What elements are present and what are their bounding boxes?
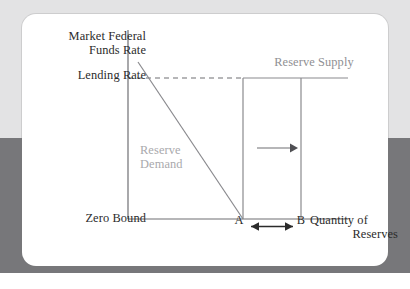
point-b-label: B — [290, 214, 312, 228]
backdrop-footer-strip — [0, 273, 410, 289]
reserve-supply-label: Reserve Supply — [244, 56, 384, 70]
figure-page: Market FederalFunds Rate Lending Rate Ze… — [0, 0, 410, 289]
a-to-b-span-arrow-icon — [251, 222, 293, 231]
x-axis-title-line1: Quantity of — [310, 213, 368, 227]
reserve-demand-label: ReserveDemand — [140, 144, 206, 171]
lending-rate-label: Lending Rate — [18, 69, 146, 83]
y-axis-title: Market FederalFunds Rate — [18, 30, 146, 57]
y-axis-title-line1: Market Federal — [69, 29, 146, 43]
zero-bound-label: Zero Bound — [18, 212, 146, 226]
reserve-demand-label-line2: Demand — [140, 157, 183, 171]
reserve-demand-curve — [138, 62, 243, 219]
supply-shift-arrow-icon — [257, 144, 298, 153]
y-axis-title-line2: Funds Rate — [89, 43, 146, 57]
x-axis-title-line2: Reserves — [310, 228, 406, 242]
reserve-demand-label-line1: Reserve — [140, 143, 181, 157]
figure-card: Market FederalFunds Rate Lending Rate Ze… — [22, 14, 388, 266]
point-a-label: A — [228, 214, 250, 228]
x-axis-title: Quantity ofReserves — [310, 214, 398, 241]
